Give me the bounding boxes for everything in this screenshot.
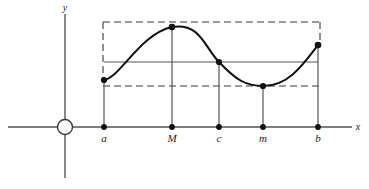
- diagram-canvas: a M c m b x y: [0, 0, 369, 189]
- tick-label-b: b: [315, 132, 321, 144]
- x-axis-label: x: [355, 121, 361, 132]
- curve-point-c: [216, 59, 222, 65]
- axis-point-c: [216, 124, 222, 130]
- axis-point-m: [260, 124, 266, 130]
- tick-label-m: m: [259, 132, 267, 144]
- axis-point-b: [315, 124, 321, 130]
- tick-label-M: M: [166, 132, 177, 144]
- y-axis-label: y: [62, 2, 68, 13]
- function-curve: [104, 26, 318, 86]
- axis-point-M: [169, 124, 175, 130]
- curve-point-M: [169, 24, 176, 31]
- curve-point-b: [315, 42, 322, 49]
- curve-point-a: [101, 77, 107, 83]
- curve-point-m: [260, 83, 266, 89]
- origin-circle-marker: [58, 120, 73, 135]
- tick-label-a: a: [101, 132, 107, 144]
- curve-point-markers: [101, 24, 321, 89]
- function-graph-figure: a M c m b x y: [0, 0, 369, 189]
- axis-point-a: [101, 124, 107, 130]
- tick-label-c: c: [217, 132, 222, 144]
- vertical-drop-lines: [104, 27, 318, 127]
